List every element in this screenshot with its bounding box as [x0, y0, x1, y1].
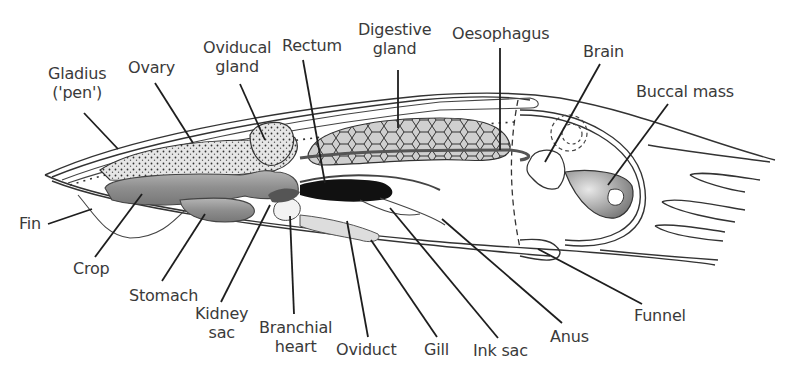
- label-ink-sac: Ink sac: [473, 341, 528, 360]
- label-branchial-heart: Branchial heart: [259, 318, 332, 356]
- label-funnel: Funnel: [634, 306, 686, 325]
- ink-sac: [300, 179, 392, 201]
- label-oviduct: Oviduct: [336, 340, 396, 359]
- label-oesophagus: Oesophagus: [452, 24, 549, 43]
- label-gladius: Gladius ('pen'): [48, 64, 106, 102]
- digestive-gland: [308, 118, 510, 165]
- label-digestive-gland: Digestive gland: [358, 20, 431, 58]
- gill: [300, 215, 379, 242]
- label-buccal-mass: Buccal mass: [636, 82, 734, 101]
- label-rectum: Rectum: [282, 36, 342, 55]
- brain: [527, 150, 565, 189]
- label-oviducal-gland: Oviducal gland: [203, 38, 271, 76]
- label-fin: Fin: [19, 214, 41, 233]
- label-ovary: Ovary: [128, 58, 175, 77]
- label-gill: Gill: [424, 340, 449, 359]
- label-brain: Brain: [583, 42, 624, 61]
- label-crop: Crop: [73, 259, 110, 278]
- stomach: [180, 198, 254, 222]
- label-stomach: Stomach: [129, 286, 198, 305]
- label-anus: Anus: [550, 327, 589, 346]
- label-kidney-sac: Kidney sac: [195, 304, 248, 342]
